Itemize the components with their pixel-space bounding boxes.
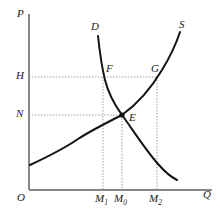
supply-curve-label: S [179, 19, 185, 30]
quantity-tick-M2: M2 [149, 193, 162, 204]
chart-canvas [0, 0, 220, 215]
demand-curve [98, 36, 177, 180]
supply-demand-figure: P Q O H N M1 M0 M2 D S F G E [0, 0, 220, 215]
point-label-G: G [151, 63, 159, 74]
x-axis-label: Q [203, 189, 211, 200]
point-label-E: E [129, 112, 136, 123]
equilibrium-point-marker [119, 112, 124, 117]
quantity-tick-M0-base: M [114, 192, 123, 204]
quantity-tick-M1: M1 [95, 193, 108, 204]
quantity-tick-M2-sub: 2 [158, 198, 162, 207]
demand-curve-label: D [91, 21, 99, 32]
price-tick-H: H [16, 70, 24, 81]
axes-group [29, 14, 212, 190]
y-axis-label: P [17, 8, 24, 19]
quantity-tick-M1-sub: 1 [104, 198, 108, 207]
guide-lines-group [29, 77, 157, 190]
quantity-tick-M0: M0 [114, 193, 127, 204]
quantity-tick-M1-base: M [95, 192, 104, 204]
quantity-tick-M2-base: M [149, 192, 158, 204]
point-label-F: F [106, 63, 113, 74]
price-tick-N: N [16, 108, 23, 119]
origin-label: O [17, 192, 25, 203]
quantity-tick-M0-sub: 0 [123, 198, 127, 207]
